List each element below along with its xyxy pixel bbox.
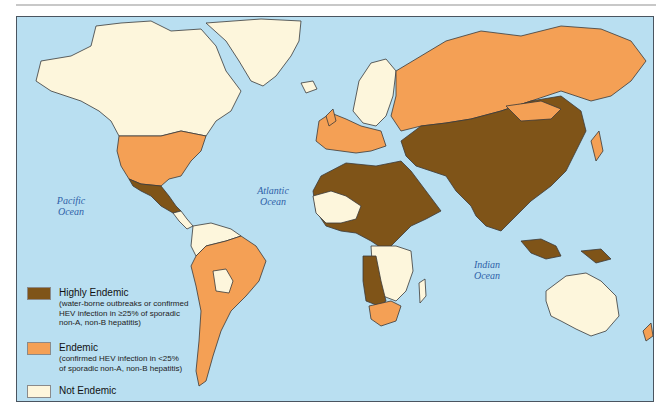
region-indonesia (521, 239, 561, 259)
world-map-svg (17, 17, 654, 402)
region-south-america (191, 236, 266, 386)
ocean-label-line: Atlantic (243, 185, 303, 196)
region-canada-alaska (36, 21, 241, 136)
region-australia (546, 273, 619, 336)
region-new-guinea (581, 249, 611, 263)
ocean-label-line: Indian (457, 259, 517, 270)
ocean-label-atlantic: Atlantic Ocean (243, 185, 303, 207)
region-south-africa (369, 301, 401, 326)
region-scandinavia (353, 59, 396, 126)
ocean-label-indian: Indian Ocean (457, 259, 517, 281)
ocean-label-line: Ocean (457, 270, 517, 281)
ocean-label-line: Pacific (41, 195, 101, 206)
region-new-zealand (643, 323, 653, 341)
top-divider-rule (16, 4, 656, 6)
ocean-label-line: Ocean (41, 206, 101, 217)
region-madagascar (419, 279, 426, 303)
ocean-label-pacific: Pacific Ocean (41, 195, 101, 217)
world-map: Pacific Ocean Atlantic Ocean Indian Ocea… (16, 16, 654, 402)
region-central-america (173, 211, 193, 229)
region-japan (591, 131, 603, 161)
region-usa (117, 131, 206, 186)
region-iceland (301, 81, 317, 93)
ocean-label-line: Ocean (243, 196, 303, 207)
